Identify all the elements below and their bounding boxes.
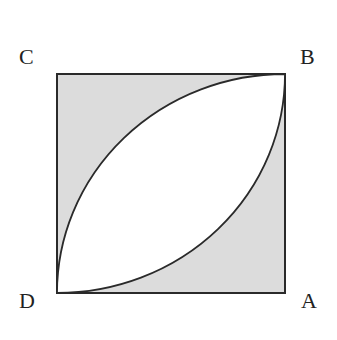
vertex-label-d: D (19, 288, 35, 313)
vertex-label-c: C (19, 44, 34, 69)
vertex-label-b: B (300, 44, 315, 69)
vertex-label-a: A (301, 288, 317, 313)
square-lens-diagram: C B D A (0, 0, 337, 340)
